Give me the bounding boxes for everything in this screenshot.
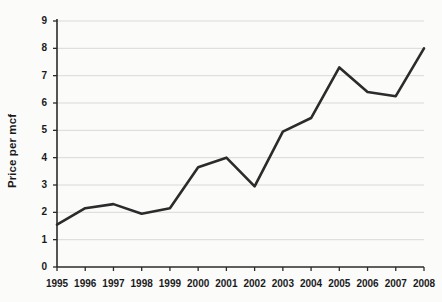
y-tick-label: 8 [31, 43, 47, 53]
gridlines [57, 21, 424, 240]
y-tick-label: 2 [31, 207, 47, 217]
y-tick-label: 3 [31, 180, 47, 190]
y-tick-label: 9 [31, 16, 47, 26]
y-tick-label: 7 [31, 71, 47, 81]
axis-lines [57, 19, 424, 267]
x-tick-label: 2008 [404, 278, 442, 289]
y-tick-label: 5 [31, 125, 47, 135]
y-tick-label: 0 [31, 262, 47, 272]
line-chart: Price per mcf 0123456789 199519961997199… [0, 0, 442, 302]
y-tick-label: 6 [31, 98, 47, 108]
y-tick-label: 1 [31, 235, 47, 245]
chart-plot-area [0, 0, 442, 302]
y-tick-label: 4 [31, 153, 47, 163]
data-series-line [57, 48, 424, 224]
